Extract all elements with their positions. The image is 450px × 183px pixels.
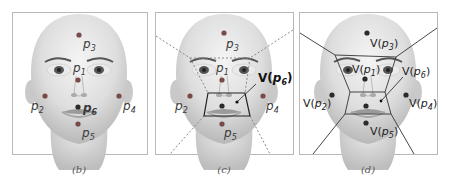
point-p5 bbox=[75, 121, 80, 126]
label-v-p1: V(p1) bbox=[352, 63, 380, 78]
label-v-p6: V(p6) bbox=[402, 65, 430, 80]
label-v-p4: V(p4) bbox=[409, 97, 437, 112]
point-p6 bbox=[75, 104, 80, 109]
point-p2 bbox=[42, 93, 47, 98]
panel-b: p3 p1 p2 p4 p5 p6 (b) bbox=[13, 13, 148, 176]
caption-c: (c) bbox=[217, 164, 231, 175]
figure-canvas: p3 p1 p2 p4 p5 p6 (b) p3 p1 p2 p4 p bbox=[0, 0, 450, 183]
point-p1 bbox=[362, 76, 367, 81]
label-p4: p4 bbox=[122, 99, 136, 115]
panel-d: V(p3) V(p1) V(p6) V(p2) V(p4) V(p5) (d) bbox=[300, 13, 438, 176]
point-p1 bbox=[75, 77, 80, 82]
label-p4: p4 bbox=[265, 99, 279, 115]
label-v-p3: V(p3) bbox=[370, 37, 398, 52]
label-v-p6: V(p6) bbox=[258, 71, 292, 87]
point-p5 bbox=[363, 120, 368, 125]
label-v-p5: V(p5) bbox=[370, 125, 398, 140]
point-p3 bbox=[364, 30, 369, 35]
pointer-tip bbox=[380, 100, 383, 103]
point-p1 bbox=[219, 77, 224, 82]
point-p6 bbox=[363, 103, 368, 108]
point-p6 bbox=[219, 103, 224, 108]
point-p4 bbox=[260, 93, 265, 98]
point-p3 bbox=[221, 30, 226, 35]
label-v-p2: V(p2) bbox=[303, 97, 331, 112]
point-p2 bbox=[187, 93, 192, 98]
point-p4 bbox=[116, 93, 121, 98]
pointer-tip bbox=[235, 100, 238, 103]
point-p4 bbox=[403, 92, 408, 97]
panel-c: p3 p1 p2 p4 p5 V(p6) (c) bbox=[156, 13, 294, 176]
caption-d: (d) bbox=[361, 164, 375, 175]
caption-b: (b) bbox=[72, 164, 86, 175]
face-image-c bbox=[170, 14, 278, 170]
point-p3 bbox=[76, 32, 81, 37]
